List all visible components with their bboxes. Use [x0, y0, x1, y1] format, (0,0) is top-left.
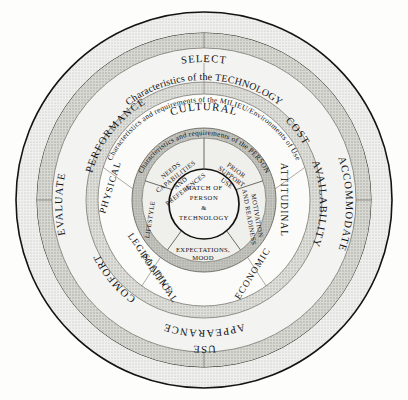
svg-text:&: & — [201, 204, 207, 211]
svg-text:TECHNOLOGY: TECHNOLOGY — [179, 214, 229, 221]
svg-text:PERSON: PERSON — [190, 194, 218, 201]
svg-text:EXPECTATIONS,: EXPECTATIONS, — [176, 246, 230, 253]
mpt-diagram-canvas: SELECT USE ACCOMMODATE EVALUATE Characte… — [0, 0, 408, 400]
concentric-ring-diagram: SELECT USE ACCOMMODATE EVALUATE Characte… — [0, 0, 408, 400]
milieu-label-attitudinal: ATTITUDINAL — [279, 163, 289, 237]
outer-label-use: USE — [192, 344, 216, 355]
svg-text:MATCH OF: MATCH OF — [185, 184, 222, 191]
svg-text:MOOD: MOOD — [192, 254, 214, 261]
svg-text:ATTITUDINAL: ATTITUDINAL — [279, 163, 289, 237]
